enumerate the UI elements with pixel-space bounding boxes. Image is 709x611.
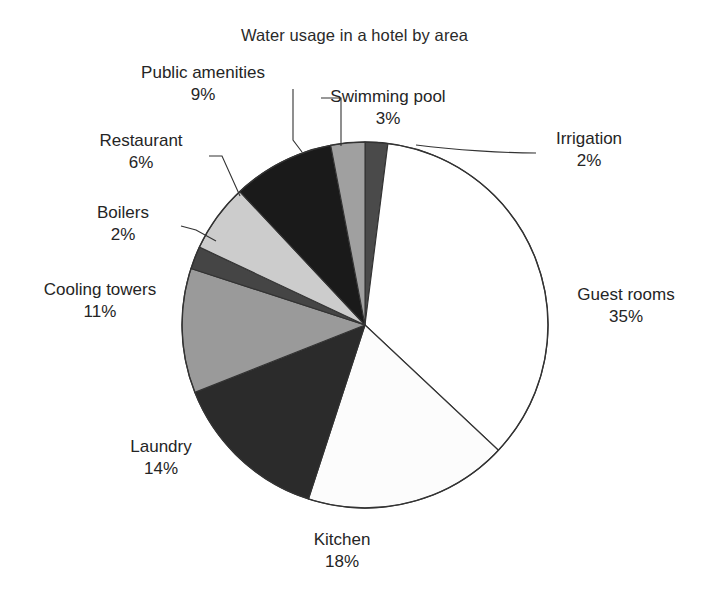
slice-label-public-amenities-value: 9% bbox=[117, 84, 289, 106]
slice-label-laundry: Laundry 14% bbox=[111, 436, 211, 480]
slice-label-kitchen-name: Kitchen bbox=[288, 529, 396, 551]
slice-label-swimming-pool-value: 3% bbox=[310, 108, 466, 130]
slice-label-kitchen: Kitchen 18% bbox=[288, 529, 396, 573]
slice-label-irrigation: Irrigation 2% bbox=[536, 128, 642, 172]
slice-label-laundry-name: Laundry bbox=[111, 436, 211, 458]
slice-label-cooling-towers-value: 11% bbox=[22, 301, 178, 323]
slice-label-restaurant-value: 6% bbox=[79, 152, 203, 174]
slice-label-irrigation-value: 2% bbox=[536, 150, 642, 172]
slice-label-boilers: Boilers 2% bbox=[73, 202, 173, 246]
pie-slice-group bbox=[182, 142, 548, 508]
slice-label-cooling-towers: Cooling towers 11% bbox=[22, 279, 178, 323]
slice-label-guest-rooms-name: Guest rooms bbox=[560, 284, 692, 306]
leader-line-public-amenities bbox=[293, 89, 302, 152]
slice-label-restaurant: Restaurant 6% bbox=[79, 130, 203, 174]
slice-label-laundry-value: 14% bbox=[111, 458, 211, 480]
slice-label-kitchen-value: 18% bbox=[288, 551, 396, 573]
slice-label-restaurant-name: Restaurant bbox=[79, 130, 203, 152]
leader-line-restaurant bbox=[209, 156, 240, 196]
slice-label-swimming-pool: Swimming pool 3% bbox=[310, 86, 466, 130]
slice-label-guest-rooms: Guest rooms 35% bbox=[560, 284, 692, 328]
slice-label-public-amenities-name: Public amenities bbox=[117, 62, 289, 84]
pie-chart-figure: Water usage in a hotel by area Public am… bbox=[0, 0, 709, 611]
slice-label-irrigation-name: Irrigation bbox=[536, 128, 642, 150]
slice-label-guest-rooms-value: 35% bbox=[560, 306, 692, 328]
slice-label-cooling-towers-name: Cooling towers bbox=[22, 279, 178, 301]
slice-label-swimming-pool-name: Swimming pool bbox=[310, 86, 466, 108]
leader-line-irrigation bbox=[416, 145, 536, 153]
slice-label-public-amenities: Public amenities 9% bbox=[117, 62, 289, 106]
slice-label-boilers-value: 2% bbox=[73, 224, 173, 246]
slice-label-boilers-name: Boilers bbox=[73, 202, 173, 224]
